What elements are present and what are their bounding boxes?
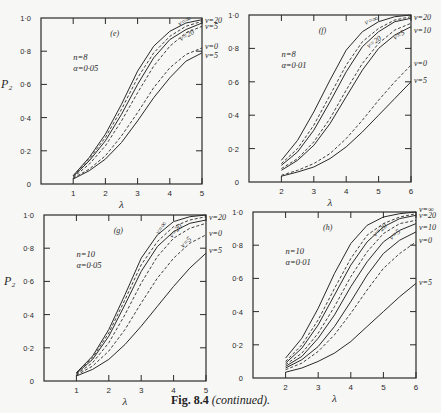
y-tick-label: 1·0 — [228, 11, 239, 20]
x-tick-label: 5 — [200, 189, 205, 198]
y-tick-label: 0 — [235, 178, 239, 187]
x-tick-label: 2 — [283, 383, 288, 392]
parameter-annotation: n=10 — [76, 249, 95, 259]
curve-end-label: ν=5 — [414, 76, 427, 85]
y-tick-label: 0·8 — [23, 244, 34, 253]
x-tick-label: 3 — [312, 187, 317, 196]
y-tick-label: 0 — [30, 377, 34, 386]
curve--5 — [73, 26, 202, 177]
figure-caption-text: (continued). — [212, 393, 270, 407]
x-tick-label: 6 — [409, 187, 414, 196]
panel-title: (f) — [319, 26, 327, 35]
y-axis-label: P₂ — [0, 77, 13, 91]
parameter-annotation: n=10 — [286, 246, 305, 256]
parameter-annotation: n=8 — [281, 49, 296, 59]
curve-inline-label: ν=20 — [365, 33, 383, 50]
y-tick-label: 1·0 — [20, 14, 31, 23]
x-tick-label: 5 — [376, 187, 381, 196]
chart-panel-h: 2345600·20·40·60·81·0λ(h)n=10α=0·01ν=∞ν=… — [232, 205, 436, 404]
panel-title: (e) — [110, 29, 119, 38]
chart-panel-e: 1234500·20·40·60·81·0λP₂(e)n=8α=0·05ν=20… — [0, 13, 222, 210]
panel-title: (h) — [323, 223, 333, 232]
curve-inline-label: ν=20 — [371, 221, 389, 238]
curve-end-label: ν=20 — [414, 13, 431, 22]
x-tick-label: 5 — [381, 383, 386, 392]
curve-inline-label: ν=20 — [167, 222, 184, 240]
y-tick-label: 1·0 — [232, 208, 243, 217]
x-tick-label: 3 — [135, 189, 140, 198]
curve--10 — [286, 224, 416, 367]
curve-end-label: ν=0 — [419, 236, 432, 245]
x-axis-label: λ — [118, 198, 124, 210]
figure-number: Fig. 8.4 — [171, 393, 209, 407]
y-tick-label: 0 — [239, 374, 243, 383]
curve-end-label: ν=5 — [209, 246, 222, 255]
curve-- — [73, 20, 202, 176]
curve--0 — [281, 65, 411, 175]
curve-end-label: ν=20 — [419, 211, 436, 220]
x-tick-label: 4 — [344, 187, 349, 196]
curve--10 — [281, 27, 411, 171]
x-tick-label: 4 — [349, 383, 354, 392]
curve-end-label: ν=5 — [205, 51, 218, 60]
x-tick-label: 1 — [71, 189, 76, 198]
parameter-annotation: α=0·01 — [286, 257, 311, 267]
chart-panel-g: 1234500·20·40·60·81·0λP₂(g)n=10α=0·05ν=2… — [3, 211, 226, 407]
y-tick-label: 0·6 — [228, 78, 239, 87]
y-tick-label: 0·6 — [20, 80, 31, 89]
y-tick-label: 0·8 — [20, 47, 31, 56]
y-tick-label: 0·2 — [228, 145, 239, 154]
parameter-annotation: α=0·01 — [281, 60, 306, 70]
plot-frame — [41, 18, 202, 184]
curve-end-label: ν=5 — [419, 278, 432, 287]
figure-caption: Fig. 8.4 (continued). — [0, 393, 441, 408]
plot-frame — [249, 15, 411, 182]
x-tick-label: 2 — [279, 187, 284, 196]
curve-end-label: ν=0 — [414, 59, 427, 68]
y-tick-label: 0·2 — [232, 341, 243, 350]
y-tick-label: 0·2 — [23, 344, 34, 353]
parameter-annotation: n=8 — [73, 52, 88, 62]
chart-panel-f: 2345600·20·40·60·81·0λ(f)n=8α=0·01ν=20ν=… — [228, 11, 431, 208]
x-tick-label: 2 — [103, 189, 108, 198]
y-tick-label: 0·6 — [23, 277, 34, 286]
parameter-annotation: α=0·05 — [76, 260, 101, 270]
curve--20-solid- — [281, 18, 411, 165]
curve--5-lower- — [286, 283, 416, 372]
curve-inline-label: ν=20 — [178, 27, 196, 43]
x-tick-label: 3 — [316, 383, 321, 392]
y-tick-label: 0 — [27, 180, 31, 189]
y-tick-label: 0·6 — [232, 274, 243, 283]
y-tick-label: 0·2 — [20, 147, 31, 156]
curve-end-label: ν=0 — [209, 229, 222, 238]
curve-end-label: ν=10 — [419, 223, 436, 232]
y-tick-label: 1·0 — [23, 211, 34, 220]
y-tick-label: 0·8 — [232, 241, 243, 250]
y-tick-label: 0·4 — [20, 114, 31, 123]
x-axis-label: λ — [327, 196, 333, 208]
y-tick-label: 0·4 — [23, 311, 34, 320]
parameter-annotation: α=0·05 — [73, 63, 98, 73]
y-tick-label: 0·4 — [228, 111, 239, 120]
curve-end-label: ν=5 — [205, 22, 218, 31]
curve-inline-label: ν=∞ — [176, 13, 193, 28]
curve-end-label: ν=20 — [209, 213, 226, 222]
y-tick-label: 0·4 — [232, 308, 243, 317]
curve-inline-label: ν=5 — [178, 234, 193, 249]
panel-title: (g) — [114, 226, 124, 235]
x-tick-label: 4 — [168, 189, 173, 198]
curve-end-label: ν=10 — [414, 26, 431, 35]
x-tick-label: 6 — [414, 383, 419, 392]
y-axis-label: P₂ — [3, 274, 16, 288]
curve--20 — [281, 17, 411, 164]
figure-8-4: 1234500·20·40·60·81·0λP₂(e)n=8α=0·05ν=20… — [0, 0, 441, 413]
y-tick-label: 0·8 — [228, 44, 239, 53]
